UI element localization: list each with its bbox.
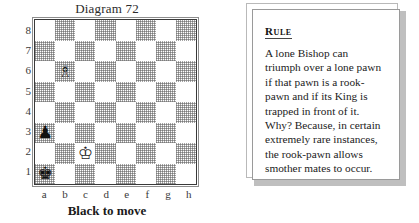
file-label-c: c — [75, 188, 96, 200]
square-h5[interactable] — [176, 82, 196, 103]
rule-card-body: Rule A lone Bishop cantriumph over a lon… — [252, 9, 400, 180]
square-b8[interactable] — [55, 20, 75, 41]
rule-line-4: pawn and if its King is — [265, 89, 389, 103]
rank-label-8: 8 — [18, 24, 31, 36]
black-pawn-icon[interactable]: ♟ — [35, 123, 55, 144]
square-a5[interactable] — [35, 82, 55, 103]
rule-line-1: A lone Bishop can — [265, 46, 389, 60]
square-e7[interactable] — [116, 41, 136, 62]
square-f5[interactable] — [136, 82, 156, 103]
square-g8[interactable] — [156, 20, 176, 41]
square-c2[interactable]: ♔ — [75, 143, 95, 164]
square-e5[interactable] — [116, 82, 136, 103]
file-label-e: e — [117, 188, 138, 200]
square-h7[interactable] — [176, 41, 196, 62]
square-c3[interactable] — [75, 123, 95, 144]
rule-heading: Rule — [265, 25, 292, 39]
rank-label-6: 6 — [18, 64, 31, 76]
chessboard-area: ♗♟♔♚ 87654321 — [34, 19, 197, 185]
square-h8[interactable] — [176, 20, 196, 41]
square-g7[interactable] — [156, 41, 176, 62]
rule-line-6: Why? Because, in certain — [265, 118, 389, 132]
square-c6[interactable] — [75, 61, 95, 82]
square-h2[interactable] — [176, 143, 196, 164]
square-a2[interactable] — [35, 143, 55, 164]
file-label-b: b — [55, 188, 76, 200]
square-f3[interactable] — [136, 123, 156, 144]
black-king-icon[interactable]: ♚ — [35, 164, 55, 185]
square-e4[interactable] — [116, 102, 136, 123]
square-e1[interactable] — [116, 164, 136, 185]
square-f1[interactable] — [136, 164, 156, 185]
rank-label-7: 7 — [18, 44, 31, 56]
square-e6[interactable] — [116, 61, 136, 82]
square-c7[interactable] — [75, 41, 95, 62]
rule-text: A lone Bishop cantriumph over a lone paw… — [265, 46, 389, 176]
square-g1[interactable] — [156, 164, 176, 185]
file-label-g: g — [158, 188, 179, 200]
square-d3[interactable] — [95, 123, 115, 144]
rule-line-9: smother mates to occur. — [265, 161, 389, 175]
square-d4[interactable] — [95, 102, 115, 123]
square-f7[interactable] — [136, 41, 156, 62]
square-d1[interactable] — [95, 164, 115, 185]
square-c1[interactable] — [75, 164, 95, 185]
rank-label-2: 2 — [18, 145, 31, 157]
square-h1[interactable] — [176, 164, 196, 185]
square-g6[interactable] — [156, 61, 176, 82]
square-c8[interactable] — [75, 20, 95, 41]
square-a8[interactable] — [35, 20, 55, 41]
square-g4[interactable] — [156, 102, 176, 123]
square-a3[interactable]: ♟ — [35, 123, 55, 144]
square-f4[interactable] — [136, 102, 156, 123]
square-c4[interactable] — [75, 102, 95, 123]
rule-card: Rule A lone Bishop cantriumph over a lon… — [246, 3, 406, 186]
square-a4[interactable] — [35, 102, 55, 123]
square-d7[interactable] — [95, 41, 115, 62]
square-h3[interactable] — [176, 123, 196, 144]
rank-label-4: 4 — [18, 105, 31, 117]
square-e8[interactable] — [116, 20, 136, 41]
square-b4[interactable] — [55, 102, 75, 123]
diagram-panel: Diagram 72 ♗♟♔♚ 87654321 abcdefgh Black … — [0, 0, 222, 223]
white-king-icon[interactable]: ♔ — [75, 143, 95, 164]
board-caption: Black to move — [0, 203, 214, 219]
square-b6[interactable]: ♗ — [55, 61, 75, 82]
file-label-h: h — [178, 188, 199, 200]
square-b1[interactable] — [55, 164, 75, 185]
file-label-f: f — [137, 188, 158, 200]
white-bishop-icon[interactable]: ♗ — [55, 61, 75, 82]
file-label-a: a — [34, 188, 55, 200]
square-a6[interactable] — [35, 61, 55, 82]
square-b2[interactable] — [55, 143, 75, 164]
rule-line-7: extremely rare instances, — [265, 132, 389, 146]
diagram-title: Diagram 72 — [0, 1, 214, 17]
square-g5[interactable] — [156, 82, 176, 103]
square-g3[interactable] — [156, 123, 176, 144]
rank-label-3: 3 — [18, 125, 31, 137]
square-e2[interactable] — [116, 143, 136, 164]
square-d6[interactable] — [95, 61, 115, 82]
rule-line-8: the rook-pawn allows — [265, 147, 389, 161]
rank-label-1: 1 — [18, 165, 31, 177]
square-d2[interactable] — [95, 143, 115, 164]
square-b3[interactable] — [55, 123, 75, 144]
square-f6[interactable] — [136, 61, 156, 82]
chessboard[interactable]: ♗♟♔♚ — [34, 19, 197, 185]
square-d5[interactable] — [95, 82, 115, 103]
square-d8[interactable] — [95, 20, 115, 41]
file-labels: abcdefgh — [34, 188, 199, 200]
square-h4[interactable] — [176, 102, 196, 123]
square-c5[interactable] — [75, 82, 95, 103]
square-h6[interactable] — [176, 61, 196, 82]
square-a7[interactable] — [35, 41, 55, 62]
square-e3[interactable] — [116, 123, 136, 144]
square-g2[interactable] — [156, 143, 176, 164]
rank-label-5: 5 — [18, 85, 31, 97]
square-b5[interactable] — [55, 82, 75, 103]
square-f8[interactable] — [136, 20, 156, 41]
square-f2[interactable] — [136, 143, 156, 164]
square-b7[interactable] — [55, 41, 75, 62]
square-a1[interactable]: ♚ — [35, 164, 55, 185]
rule-line-3: if that pawn is a rook- — [265, 75, 389, 89]
